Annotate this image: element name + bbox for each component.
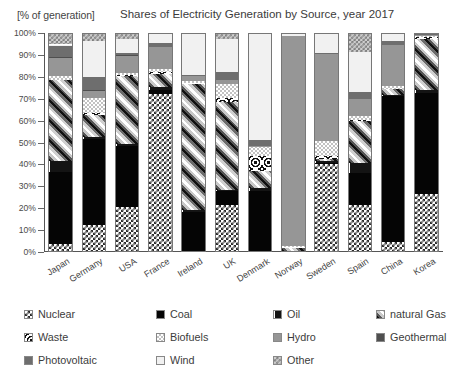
bar-segment-hydro bbox=[83, 91, 106, 98]
bar-segment-biofuels bbox=[315, 141, 338, 155]
bar-segment-wind bbox=[83, 41, 106, 77]
bar-segment-wind bbox=[382, 33, 405, 41]
stacked-bar[interactable] bbox=[381, 33, 406, 252]
stacked-bar[interactable] bbox=[348, 33, 373, 252]
x-axis-tick-label-text: Ireland bbox=[176, 256, 205, 279]
stacked-bar[interactable] bbox=[281, 33, 306, 252]
bar-column[interactable] bbox=[248, 33, 273, 252]
y-axis-tick-label: 60% bbox=[19, 116, 36, 126]
stacked-bar[interactable] bbox=[314, 33, 339, 252]
legend-swatch-biofuels-icon bbox=[156, 333, 165, 342]
legend-label: Coal bbox=[170, 308, 192, 320]
legend-label: Photovoltaic bbox=[38, 354, 97, 366]
legend-item-nuclear[interactable]: Nuclear bbox=[24, 303, 75, 325]
legend-swatch-coal-icon bbox=[156, 310, 165, 319]
bar-segment-wind bbox=[116, 39, 139, 53]
stacked-bar[interactable] bbox=[181, 33, 206, 252]
legend-row: WasteBiofuelsHydroGeothermal bbox=[24, 326, 442, 348]
y-axis-tick-label: 70% bbox=[19, 94, 36, 104]
bar-column[interactable] bbox=[215, 33, 240, 252]
bar-segment-photovoltaic bbox=[116, 53, 139, 56]
bar-segment-oil bbox=[415, 90, 438, 93]
bar-column[interactable] bbox=[381, 33, 406, 252]
legend-swatch-gas-icon bbox=[376, 310, 385, 319]
legend-swatch-nuclear-icon bbox=[24, 310, 33, 319]
bar-column[interactable] bbox=[115, 33, 140, 252]
legend-item-oil[interactable]: Oil bbox=[273, 303, 300, 325]
bar-segment-coal bbox=[116, 146, 139, 207]
legend-item-coal[interactable]: Coal bbox=[156, 303, 192, 325]
x-axis-tick-label-text: France bbox=[142, 256, 171, 279]
bar-segment-coal bbox=[249, 191, 272, 251]
legend-label: Hydro bbox=[287, 331, 316, 343]
bar-segment-waste bbox=[182, 83, 205, 84]
bar-column[interactable] bbox=[148, 33, 173, 252]
bar-segment-coal bbox=[49, 172, 72, 244]
bar-column[interactable] bbox=[414, 33, 439, 252]
bar-segment-other bbox=[349, 33, 372, 52]
bar-column[interactable] bbox=[181, 33, 206, 252]
legend-item-waste[interactable]: Waste bbox=[24, 326, 68, 348]
bar-segment-oil bbox=[182, 210, 205, 212]
y-axis-tick-label: 90% bbox=[19, 50, 36, 60]
bar-segment-gas bbox=[382, 89, 405, 95]
legend-item-gas[interactable]: natural Gas bbox=[376, 303, 446, 325]
bar-segment-gas bbox=[349, 121, 372, 163]
x-axis-tick-label-text: UK bbox=[222, 256, 238, 271]
bar-segment-oil bbox=[49, 161, 72, 172]
stacked-bar[interactable] bbox=[115, 33, 140, 252]
bar-segment-biofuels bbox=[182, 81, 205, 83]
stacked-bar[interactable] bbox=[48, 33, 73, 252]
bar-segment-hydro bbox=[149, 47, 172, 69]
bar-segment-gas bbox=[149, 74, 172, 87]
bar-column[interactable] bbox=[348, 33, 373, 252]
legend-row: PhotovoltaicWindOther bbox=[24, 349, 442, 371]
bar-segment-hydro bbox=[382, 45, 405, 86]
bar-segment-waste bbox=[116, 75, 139, 76]
bar-segment-coal bbox=[349, 173, 372, 204]
legend-row: NuclearCoalOilnatural Gas bbox=[24, 303, 442, 325]
legend-swatch-waste-icon bbox=[24, 333, 33, 342]
bar-column[interactable] bbox=[281, 33, 306, 252]
legend-item-photovoltaic[interactable]: Photovoltaic bbox=[24, 349, 97, 371]
bar-segment-coal bbox=[382, 96, 405, 243]
bar-segment-nuclear bbox=[315, 164, 338, 251]
stacked-bar[interactable] bbox=[148, 33, 173, 252]
legend-swatch-geothermal-icon bbox=[376, 333, 385, 342]
bar-segment-hydro bbox=[216, 80, 239, 84]
stacked-bar[interactable] bbox=[414, 33, 439, 252]
bar-column[interactable] bbox=[314, 33, 339, 252]
bar-segment-waste bbox=[149, 72, 172, 74]
y-axis-tick-label: 40% bbox=[19, 159, 36, 169]
y-axis-labels: 0%10%20%30%40%50%60%70%80%90%100% bbox=[0, 33, 41, 252]
legend-item-hydro[interactable]: Hydro bbox=[273, 326, 316, 348]
bar-column[interactable] bbox=[48, 33, 73, 252]
chart-header: [% of generation] Shares of Electricity … bbox=[0, 8, 450, 28]
x-axis-tick-label: UK bbox=[232, 249, 248, 264]
stacked-bar[interactable] bbox=[82, 33, 107, 252]
bar-segment-wind bbox=[315, 33, 338, 53]
x-axis-tick-label-text: USA bbox=[117, 256, 138, 274]
legend-item-wind[interactable]: Wind bbox=[156, 349, 195, 371]
legend-item-geothermal[interactable]: Geothermal bbox=[376, 326, 446, 348]
bar-segment-waste bbox=[315, 156, 338, 159]
legend-item-biofuels[interactable]: Biofuels bbox=[156, 326, 208, 348]
bar-segment-wind bbox=[182, 33, 205, 75]
stacked-bar[interactable] bbox=[215, 33, 240, 252]
stacked-bar[interactable] bbox=[248, 33, 273, 252]
bar-segment-coal bbox=[415, 93, 438, 194]
bar-segment-oil bbox=[315, 161, 338, 163]
bar-segment-oil bbox=[83, 137, 106, 139]
chart-screenshot: [% of generation] Shares of Electricity … bbox=[0, 0, 450, 378]
bar-segment-wind bbox=[216, 39, 239, 72]
y-axis-tick-label: 10% bbox=[19, 225, 36, 235]
legend-swatch-photovoltaic-icon bbox=[24, 356, 33, 365]
bar-column[interactable] bbox=[82, 33, 107, 252]
bar-segment-photovoltaic bbox=[349, 92, 372, 99]
legend-item-other[interactable]: Other bbox=[273, 349, 314, 371]
x-axis-tick-label-text: Korea bbox=[411, 256, 437, 277]
chart-title: Shares of Electricity Generation by Sour… bbox=[120, 8, 394, 20]
y-axis-tick-label: 0% bbox=[24, 247, 36, 257]
x-axis-labels: JapanGermanyUSAFranceIrelandUKDenmarkNor… bbox=[44, 252, 443, 298]
bar-segment-coal bbox=[216, 191, 239, 205]
